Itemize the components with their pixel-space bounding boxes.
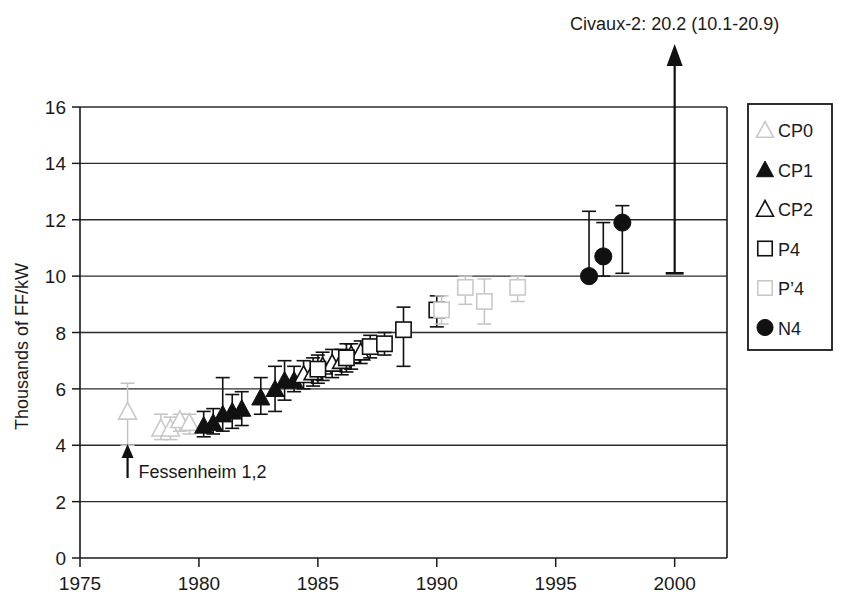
y-axis-tick-label: 2 xyxy=(55,492,66,513)
y-axis-tick-label: 10 xyxy=(45,266,66,287)
legend-item-label: CP0 xyxy=(778,121,813,141)
civaux-arrow-head xyxy=(667,44,683,66)
legend-item-label: CP2 xyxy=(778,200,813,220)
legend-item-CP0[interactable]: CP0 xyxy=(757,121,814,141)
y-axis-tick-label: 8 xyxy=(55,323,66,344)
y-axis-ticks: 0246810121416 xyxy=(45,97,80,569)
x-axis-tick-label: 1995 xyxy=(535,573,577,594)
marker-square-open-light xyxy=(510,280,525,295)
x-axis-tick-label: 1980 xyxy=(178,573,220,594)
grid-lines xyxy=(80,107,727,502)
x-axis-tick-label: 2000 xyxy=(654,573,696,594)
civaux-2-annotation-label: Civaux-2: 20.2 (10.1-20.9) xyxy=(570,14,779,34)
fessenheim-annotation: Fessenheim 1,2 xyxy=(122,444,267,482)
chart-figure: Thousands of FF/kW 0246810121416 1975198… xyxy=(0,0,846,607)
fessenheim-arrow-head xyxy=(122,444,134,458)
series-CP1 xyxy=(195,361,303,437)
legend-item-P4[interactable]: P’4 xyxy=(758,279,804,299)
data-point xyxy=(510,276,525,301)
marker-square-open xyxy=(310,361,325,376)
marker-square-open xyxy=(377,336,392,351)
marker-square-open xyxy=(758,241,772,255)
x-axis-tick-label: 1975 xyxy=(59,573,101,594)
data-point xyxy=(363,335,378,358)
legend-item-label: P4 xyxy=(778,240,800,260)
marker-square-open-light xyxy=(477,294,492,309)
marker-circle-filled xyxy=(757,319,773,335)
legend-item-label: CP1 xyxy=(778,161,813,181)
data-point xyxy=(595,223,612,277)
marker-square-open xyxy=(339,350,354,365)
cost-per-kw-scatter-chart: Thousands of FF/kW 0246810121416 1975198… xyxy=(0,0,846,607)
x-axis-ticks: 197519801985199019952000 xyxy=(59,558,696,594)
legend-item-CP2[interactable]: CP2 xyxy=(757,200,814,220)
legend-item-P4[interactable]: P4 xyxy=(758,240,800,260)
data-point xyxy=(396,307,411,366)
data-point xyxy=(580,211,597,284)
marker-square-open-light xyxy=(758,281,772,295)
data-point xyxy=(458,276,473,304)
legend-item-N4[interactable]: N4 xyxy=(757,319,801,339)
legend: CP0CP1CP2P4P’4N4 xyxy=(748,104,832,350)
legend-item-label: N4 xyxy=(778,319,801,339)
series-P4 xyxy=(434,276,525,324)
y-axis-tick-label: 12 xyxy=(45,210,66,231)
marker-circle-filled xyxy=(614,214,631,231)
series-CP0 xyxy=(119,383,199,445)
marker-square-open-light xyxy=(458,280,473,295)
series-CP2 xyxy=(295,341,370,389)
marker-square-open xyxy=(396,322,411,337)
y-axis-tick-label: 6 xyxy=(55,379,66,400)
marker-triangle-open-light xyxy=(119,402,137,419)
data-point xyxy=(377,333,392,356)
data-point xyxy=(614,206,631,274)
y-axis-tick-label: 4 xyxy=(55,435,66,456)
y-axis-tick-label: 0 xyxy=(55,548,66,569)
marker-square-open-light xyxy=(434,302,449,317)
marker-circle-filled xyxy=(580,268,597,285)
fessenheim-annotation-label: Fessenheim 1,2 xyxy=(139,462,267,482)
y-axis-title: Thousands of FF/kW xyxy=(12,263,32,430)
marker-square-open xyxy=(363,339,378,354)
y-axis-tick-label: 14 xyxy=(45,153,67,174)
data-points-layer xyxy=(119,206,631,446)
y-axis-tick-label: 16 xyxy=(45,97,66,118)
series-N4 xyxy=(580,206,630,285)
legend-item-label: P’4 xyxy=(778,279,804,299)
data-point xyxy=(477,279,492,324)
x-axis-tick-label: 1990 xyxy=(416,573,458,594)
marker-circle-filled xyxy=(595,248,612,265)
x-axis-tick-label: 1985 xyxy=(297,573,339,594)
data-point xyxy=(119,383,137,445)
